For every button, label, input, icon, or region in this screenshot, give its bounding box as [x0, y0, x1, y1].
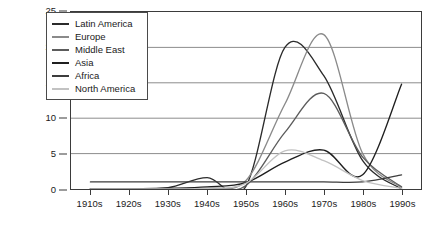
x-tick-mark: [363, 190, 364, 195]
x-tick-label: 1970s: [311, 198, 337, 209]
x-tick-label: 1960s: [272, 198, 298, 209]
legend-item[interactable]: Asia: [52, 56, 143, 69]
x-tick-mark: [90, 190, 91, 195]
legend-item-label: Europe: [75, 30, 106, 43]
y-tick-label: 5: [51, 149, 56, 159]
x-tick-mark: [285, 190, 286, 195]
legend-item[interactable]: Africa: [52, 69, 143, 82]
x-tick-label: 1910s: [77, 198, 103, 209]
x-tick-mark: [207, 190, 208, 195]
x-tick-mark: [246, 190, 247, 195]
x-tick-mark: [129, 190, 130, 195]
x-tick-label: 1930s: [155, 198, 181, 209]
legend-item-label: Middle East: [75, 43, 125, 56]
series-line: North America: [90, 150, 401, 189]
x-tick-label: 1990s: [389, 198, 415, 209]
legend-color-swatch: [52, 75, 69, 77]
y-tick-mark: [59, 190, 67, 191]
x-tick-label: 1940s: [194, 198, 220, 209]
legend-item[interactable]: Middle East: [52, 43, 143, 56]
x-tick-mark: [168, 190, 169, 195]
y-tick-label: 0: [51, 185, 56, 195]
legend-item[interactable]: North America: [52, 82, 143, 95]
chart-legend: Latin AmericaEuropeMiddle EastAsiaAfrica…: [46, 12, 148, 100]
x-tick-mark: [324, 190, 325, 195]
x-tick-mark: [402, 190, 403, 195]
legend-color-swatch: [52, 36, 69, 38]
legend-item-label: Latin America: [75, 17, 133, 30]
x-tick-label: 1950s: [233, 198, 259, 209]
x-tick-label: 1980s: [350, 198, 376, 209]
legend-item-label: Africa: [75, 69, 99, 82]
x-axis: 1910s1920s1930s1940s1950s1960s1970s1980s…: [70, 190, 422, 230]
legend-color-swatch: [52, 88, 69, 90]
y-tick-label: 10: [45, 113, 56, 123]
y-tick-mark: [59, 154, 67, 155]
legend-item-label: North America: [75, 82, 135, 95]
x-tick-label: 1920s: [116, 198, 142, 209]
y-tick-mark: [59, 118, 67, 119]
legend-color-swatch: [52, 49, 69, 51]
legend-color-swatch: [52, 62, 69, 64]
legend-item[interactable]: Latin America: [52, 17, 143, 30]
legend-item-label: Asia: [75, 56, 93, 69]
figure-container: 0510152025 Latin AmericaEuropeMiddle Eas…: [0, 0, 442, 234]
legend-item[interactable]: Europe: [52, 30, 143, 43]
legend-color-swatch: [52, 23, 69, 25]
series-line: Middle East: [90, 93, 401, 189]
